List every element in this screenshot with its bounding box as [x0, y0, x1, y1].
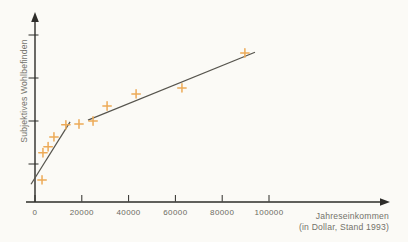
x-tick-label: 20000	[70, 208, 94, 217]
x-tick-label: 80000	[210, 208, 234, 217]
data-point-cross	[132, 90, 140, 98]
x-tick-label: 0	[33, 208, 38, 217]
x-tick-label: 60000	[163, 208, 187, 217]
data-point-cross	[38, 176, 46, 184]
y-tick-marks	[29, 35, 39, 164]
data-point-cross	[89, 117, 97, 125]
data-point-cross	[103, 102, 111, 110]
x-tick-label: 100000	[254, 208, 283, 217]
data-point-cross	[241, 49, 249, 57]
x-axis	[26, 198, 390, 206]
x-axis-title-line1: Jahreseinkommen	[316, 211, 389, 221]
data-point-cross	[50, 133, 58, 141]
y-axis-title: Subjektives Wohlbefinden	[19, 39, 29, 143]
x-axis-title-line2: (in Dollar, Stand 1993)	[299, 222, 389, 232]
data-point-cross	[75, 120, 83, 128]
x-tick-labels: 020000400006000080000100000	[33, 208, 284, 217]
x-tick-label: 40000	[116, 208, 140, 217]
data-point-cross	[62, 121, 70, 129]
x-axis-arrow-icon	[380, 198, 390, 206]
data-point-cross	[44, 143, 52, 151]
data-point-cross	[39, 149, 47, 157]
wellbeing-vs-income-chart: 020000400006000080000100000 Subjektives …	[0, 0, 408, 242]
y-axis-arrow-icon	[31, 12, 39, 22]
data-point-cross	[178, 84, 186, 92]
trend-line-segment	[88, 52, 255, 120]
chart-canvas: 020000400006000080000100000 Subjektives …	[0, 0, 408, 242]
data-points	[38, 49, 249, 184]
trend-lines	[31, 52, 255, 184]
x-tick-marks	[35, 195, 269, 202]
trend-line-segment	[31, 122, 70, 184]
